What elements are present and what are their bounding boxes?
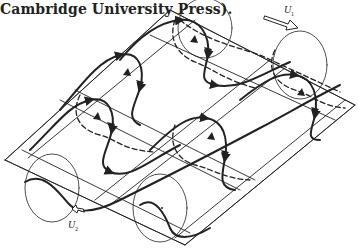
lower-velocity-arrow	[72, 205, 84, 213]
plane-frames	[5, 10, 355, 245]
roll-cells-diagram: U 1 U 2	[0, 0, 358, 248]
cylinder-end-front-left	[25, 154, 79, 222]
svg-text:1: 1	[291, 11, 294, 17]
outer-frame	[5, 10, 355, 245]
lower-velocity-label: U 2	[68, 219, 78, 232]
upper-velocity-arrow	[264, 16, 298, 30]
streamlines	[25, 20, 340, 237]
cylinder-end-back-left	[178, 0, 232, 58]
upper-velocity-label: U 1	[284, 4, 294, 17]
svg-text:2: 2	[75, 226, 78, 232]
center-dot	[161, 207, 163, 209]
hidden-streamlines	[76, 20, 345, 180]
